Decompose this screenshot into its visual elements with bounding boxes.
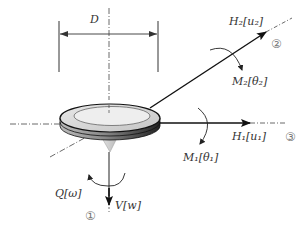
axis-2-number: ② [271, 38, 282, 50]
axis-1-number: ① [85, 210, 96, 222]
diameter-label: D [90, 14, 99, 25]
disc-foundation-diagram [0, 0, 305, 227]
m1-label: M₁[θ₁] [183, 152, 218, 163]
h1-label: H₁[u₁] [232, 131, 266, 142]
m2-label: M₂[θ₂] [232, 76, 267, 87]
axis-2-extension [266, 18, 292, 32]
m1-rotation-arrow [198, 108, 208, 144]
axis-3-number: ③ [285, 131, 296, 143]
q-rotation-arrow [89, 173, 125, 186]
q-label: Q[ω] [55, 188, 82, 199]
h2-label: H₂[u₂] [229, 16, 263, 27]
diameter-dimension [59, 21, 158, 72]
h2-arrow [150, 32, 266, 108]
disc [60, 104, 160, 152]
v-label: V[w] [115, 200, 141, 211]
